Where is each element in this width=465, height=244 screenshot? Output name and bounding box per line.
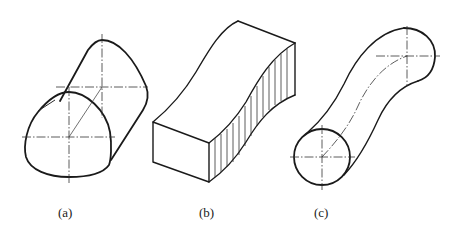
hatching	[215, 49, 287, 177]
panel-label-b: (b)	[199, 205, 214, 221]
panel-label-c: (c)	[314, 205, 328, 221]
figure-a-cylinder	[22, 34, 148, 183]
panel-label-a: (a)	[58, 205, 72, 221]
figure-c-swept-circle	[290, 26, 440, 190]
figure-b-swept-block	[153, 21, 295, 182]
